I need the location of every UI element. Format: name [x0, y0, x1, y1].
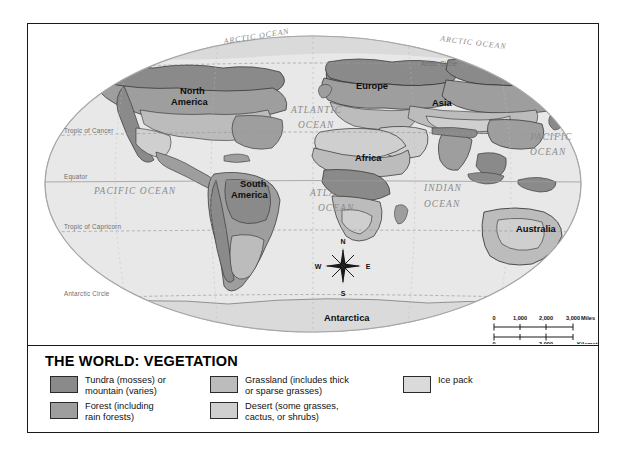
legend-title: THE WORLD: VEGETATION: [45, 353, 238, 369]
graticule-label: Antarctic Circle: [64, 290, 110, 297]
ocean-label: OCEAN: [298, 120, 334, 130]
legend-entry-line1: Tundra (mosses) or: [85, 375, 166, 385]
scale-miles-tick-2: 2,000: [539, 315, 553, 321]
antarctica-ice: [58, 299, 573, 336]
scale-miles-tick-0: 0: [492, 315, 495, 321]
map-legend-panel: THE WORLD: VEGETATION Tundra (mosses) or…: [28, 345, 598, 432]
scale-km-tick-0: 0: [492, 341, 495, 344]
scale-bar: 0 1,000 2,000 3,000 Miles 0 3,000 Kilome…: [492, 315, 598, 344]
legend-entry-text: Ice pack: [438, 375, 473, 386]
ocean-label: PACIFIC: [529, 132, 572, 142]
legend-column-3: Ice pack: [403, 375, 553, 398]
legend-entry-text: Desert (some grasses,cactus, or shrubs): [245, 401, 339, 422]
world-map-panel: Arctic CircleTropic of CancerEquatorTrop…: [28, 24, 598, 344]
compass-east-label: E: [366, 263, 371, 270]
graticule-label: Arctic Circle: [421, 60, 457, 67]
continent-label: Antarctica: [324, 313, 370, 323]
new-zealand: [572, 257, 586, 274]
graticule-label: Tropic of Cancer: [64, 127, 114, 135]
legend-swatch: [50, 402, 78, 419]
ocean-label: ATLANTIC: [290, 105, 342, 115]
legend-column-2: Grassland (includes thickor sparse grass…: [210, 375, 380, 427]
scale-km-unit: Kilometers: [577, 341, 598, 344]
ocean-label: PACIFIC OCEAN: [93, 186, 176, 196]
scale-km-tick-1: 3,000: [539, 341, 553, 344]
legend-entry: Tundra (mosses) ormountain (varies): [50, 375, 210, 396]
legend-swatch: [210, 376, 238, 393]
legend-swatch: [210, 402, 238, 419]
legend-entry: Forest (includingrain forests): [50, 401, 210, 422]
legend-entry-line2: mountain (varies): [85, 386, 166, 397]
legend-entry: Grassland (includes thickor sparse grass…: [210, 375, 380, 396]
continent-label: Europe: [356, 81, 388, 91]
map-figure-frame: Arctic CircleTropic of CancerEquatorTrop…: [27, 23, 599, 433]
ocean-label: ARCTIC OCEAN: [439, 34, 507, 51]
legend-entry-line1: Desert (some grasses,: [245, 401, 339, 411]
legend-entry-line2: cactus, or shrubs): [245, 412, 339, 423]
ocean-label: ATLANTIC: [309, 188, 361, 198]
continent-label: Australia: [516, 224, 557, 234]
scale-miles-tick-3: 3,000: [566, 315, 580, 321]
legend-entry-line1: Ice pack: [438, 375, 473, 385]
graticule-label: Equator: [64, 173, 87, 181]
scale-miles-tick-1: 1,000: [513, 315, 527, 321]
legend-entry-text: Tundra (mosses) ormountain (varies): [85, 375, 166, 396]
legend-entry-line2: rain forests): [85, 412, 154, 423]
legend-entry: Desert (some grasses,cactus, or shrubs): [210, 401, 380, 422]
legend-entry-line2: or sparse grasses): [245, 386, 349, 397]
scale-miles-unit: Miles: [581, 315, 595, 321]
compass-south-label: S: [341, 290, 346, 297]
legend-swatch: [50, 376, 78, 393]
continent-label: America: [171, 97, 209, 107]
ocean-label: OCEAN: [530, 147, 566, 157]
legend-entry-text: Forest (includingrain forests): [85, 401, 154, 422]
compass-west-label: W: [315, 263, 322, 270]
legend-column-1: Tundra (mosses) ormountain (varies)Fores…: [50, 375, 210, 427]
world-map-graphic: Arctic CircleTropic of CancerEquatorTrop…: [28, 24, 598, 344]
ocean-label: INDIAN: [423, 183, 462, 193]
ocean-label: OCEAN: [318, 203, 354, 213]
continent-label: America: [231, 190, 269, 200]
caribbean-islands: [224, 154, 250, 163]
legend-entry-text: Grassland (includes thickor sparse grass…: [245, 375, 349, 396]
graticule-label: Tropic of Capricorn: [64, 223, 121, 231]
legend-entry-line1: Grassland (includes thick: [245, 375, 349, 385]
legend-swatch: [403, 376, 431, 393]
ocean-label: OCEAN: [424, 199, 460, 209]
legend-entry-line1: Forest (including: [85, 401, 154, 411]
continent-label: Africa: [355, 153, 382, 163]
compass-north-label: N: [340, 238, 345, 245]
continent-label: South: [240, 179, 267, 189]
continent-label: North: [180, 86, 205, 96]
continent-label: Asia: [432, 98, 452, 108]
legend-entry: Ice pack: [403, 375, 553, 393]
